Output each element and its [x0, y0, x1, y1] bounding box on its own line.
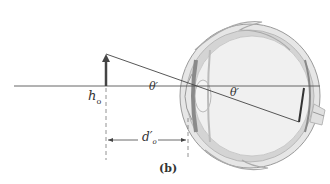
object-arrow [102, 54, 110, 86]
eye-diagram [0, 0, 330, 184]
angle-label-inner: θ′ [230, 86, 239, 99]
distance-label: d′o [142, 130, 157, 146]
angle-label-outer: θ′ [149, 80, 158, 93]
panel-label: (b) [159, 162, 177, 175]
object-height-label: ho [88, 88, 101, 106]
